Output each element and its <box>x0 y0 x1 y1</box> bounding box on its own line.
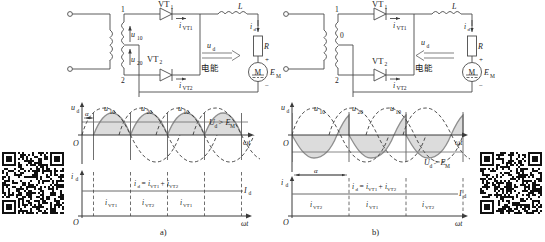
sum-expression-b: i d = i VT1 + i VT2 <box>352 182 397 192</box>
svg-text:VT2: VT2 <box>425 205 435 210</box>
alpha-label-a: α <box>85 110 89 118</box>
label-vt2-sub-b: 2 <box>385 61 388 67</box>
ud-relation-b: > E <box>433 158 445 167</box>
label-id-b: i <box>464 22 466 31</box>
label-vt2-sub-a: 2 <box>160 59 163 65</box>
label-vt1-b: VT <box>372 0 384 9</box>
label-plus-a: + <box>265 56 269 64</box>
ac-terminal-bottom-a <box>68 67 73 72</box>
label-vt2-a: VT <box>147 54 159 64</box>
wire-centertap-a <box>124 45 139 97</box>
ac-terminal-top-b <box>284 12 289 17</box>
label-vt2-b: VT <box>372 56 384 66</box>
label-vt1-a: VT <box>158 0 170 9</box>
wavelabel-u10-b: u <box>314 104 318 113</box>
wire-tap1-a <box>124 14 160 22</box>
x-axis-arrow-current-a <box>246 214 252 219</box>
svg-text:i: i <box>310 200 312 209</box>
svg-text:d: d <box>76 176 79 182</box>
origin-current-b: O <box>283 218 289 227</box>
ylabel-ud-a: u <box>71 103 75 112</box>
wavelabel-u10b-a: u <box>178 104 182 113</box>
segment-label-2-b: i VT1 <box>366 200 379 210</box>
svg-text:= i: = i <box>359 182 368 191</box>
label-u20-a: u <box>131 55 135 64</box>
wire-primary-top-a <box>72 14 110 30</box>
label-ud-sub-a: d <box>213 46 216 52</box>
current-waveform-a: i d O ωt I d i d = i VT1 + i VT2 i VT1 i… <box>71 170 252 228</box>
label-motor-b: M <box>469 68 476 77</box>
svg-text:d: d <box>249 190 252 196</box>
segment-label-3-b: i VT2 <box>422 200 435 210</box>
label-ivt2-b: i <box>393 81 395 90</box>
label-u10-a: u <box>131 30 135 39</box>
label-ivt2-sub-b: VT2 <box>397 85 407 91</box>
svg-text:VT1: VT1 <box>369 205 379 210</box>
voltage-waveform-a: u d α O ωt u 10 u 20 u 10 U d > E M <box>71 102 260 164</box>
wire-primary-bottom-a <box>72 60 110 69</box>
svg-text:+ i: + i <box>160 179 169 188</box>
label-l-b: L <box>451 2 457 11</box>
id-level-label-a: I <box>243 186 247 195</box>
label-tap1-b: 1 <box>335 5 339 14</box>
svg-text:20: 20 <box>358 109 364 115</box>
label-l-a: L <box>237 2 243 11</box>
y-axis-arrow-b <box>290 102 294 107</box>
label-ivt1-a: i <box>179 21 181 30</box>
qr-code-right[interactable] <box>480 152 542 216</box>
y-axis-arrow-current-a <box>80 170 84 175</box>
svg-text:10: 10 <box>184 109 190 115</box>
x-axis-arrow-a <box>248 133 254 138</box>
label-tap2-a: 2 <box>121 76 125 85</box>
current-waveform-b: α i d O ωt I d i d = i VT1 + i VT2 i VT2 <box>281 167 468 228</box>
svg-text:i: i <box>105 198 107 207</box>
transformer-primary-b <box>324 30 327 60</box>
label-vt1-sub-b: 1 <box>385 4 388 10</box>
ylabel-id-a: i <box>71 172 73 181</box>
svg-text:VT2: VT2 <box>313 205 323 210</box>
svg-text:i: i <box>366 200 368 209</box>
label-u10-sub-a: 10 <box>137 35 143 41</box>
svg-text:= i: = i <box>141 179 150 188</box>
label-minus-a: − <box>265 82 269 90</box>
sum-expression-a: i d = i VT1 + i VT2 <box>134 179 179 189</box>
label-tap2-b: 2 <box>335 76 339 85</box>
y-axis-arrow-current-b <box>290 176 294 181</box>
label-vt1-sub-a: 1 <box>171 4 174 10</box>
ac-terminal-top-a <box>68 12 73 17</box>
qr-code-left[interactable] <box>2 152 64 216</box>
wire-tap2-b <box>338 68 374 75</box>
label-plus-b: + <box>479 56 483 64</box>
xlabel-b: ωt <box>455 138 463 147</box>
circuit-a <box>68 8 268 97</box>
figure-container: 1 2 u 10 u 20 VT 1 VT 2 i VT1 i VT2 L R … <box>0 0 545 242</box>
label-em-sub-b: M <box>490 73 495 79</box>
svg-text:20: 20 <box>147 109 153 115</box>
label-ivt1-sub-a: VT1 <box>183 25 193 31</box>
label-r-b: R <box>477 42 483 51</box>
label-u20-sub-a: 20 <box>137 60 143 66</box>
segment-label-1-b: i VT2 <box>310 200 323 210</box>
label-minus-b: − <box>479 82 483 90</box>
svg-text:d: d <box>287 108 290 114</box>
svg-text:i: i <box>422 200 424 209</box>
svg-text:10: 10 <box>320 109 326 115</box>
label-em-sub-a: M <box>276 73 281 79</box>
label-id-a: i <box>250 22 252 31</box>
xlabel-current-a: ωt <box>241 219 249 228</box>
origin-current-a: O <box>73 218 79 227</box>
svg-text:d: d <box>464 193 467 199</box>
caption-a: a) <box>160 227 167 237</box>
resistor-r-a <box>254 36 263 56</box>
svg-text:d: d <box>286 182 289 188</box>
label-motor-a: M <box>255 68 262 77</box>
svg-text:VT1: VT1 <box>368 187 378 192</box>
output-shade-b <box>292 115 463 158</box>
wire-tap2-a <box>124 68 160 75</box>
wire-return-a <box>139 82 258 93</box>
voltage-waveform-b: u d O ωt u 10 u 20 u 10 U d > E M <box>281 102 470 172</box>
label-em-a: E <box>269 68 275 77</box>
label-ivt1-b: i <box>393 21 395 30</box>
wire-return-b <box>353 82 472 93</box>
power-flow-arrow-b <box>416 51 454 61</box>
